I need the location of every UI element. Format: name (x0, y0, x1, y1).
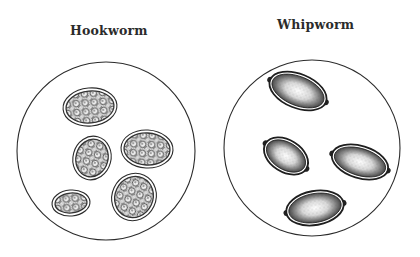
whipworm-egg (255, 128, 318, 184)
hookworm-egg (120, 129, 174, 170)
egg-diagram (0, 0, 420, 257)
whipworm-egg (281, 186, 350, 231)
hookworm-egg (68, 132, 116, 184)
hookworm-egg (61, 86, 118, 129)
hookworm-panel (17, 62, 195, 240)
hookworm-egg (51, 188, 91, 217)
whipworm-egg (261, 63, 335, 119)
whipworm-egg (325, 137, 396, 186)
whipworm-panel (224, 60, 400, 236)
hookworm-egg (104, 166, 164, 228)
